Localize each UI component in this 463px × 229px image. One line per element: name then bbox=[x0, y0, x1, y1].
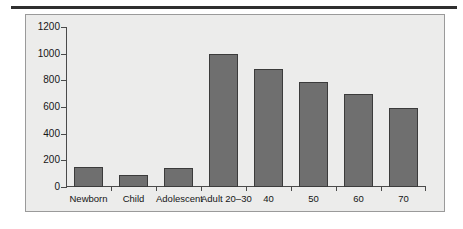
bar bbox=[209, 54, 238, 187]
y-axis-tick bbox=[61, 107, 67, 108]
y-axis-tick-label: 400 bbox=[43, 127, 60, 140]
y-axis-tick-label: 0 bbox=[54, 180, 60, 193]
top-divider-rule bbox=[11, 6, 457, 9]
y-axis-tick bbox=[61, 160, 67, 161]
y-axis-tick-label: 200 bbox=[43, 153, 60, 166]
plot-area: 020040060080010001200 NewbornChildAdoles… bbox=[66, 27, 426, 187]
y-axis-tick-label: 600 bbox=[43, 100, 60, 113]
bar bbox=[119, 175, 148, 187]
x-axis-tick-label: Adult 20–30 bbox=[201, 193, 246, 205]
bar bbox=[299, 82, 328, 187]
x-axis-tick-label: 50 bbox=[291, 193, 336, 205]
y-axis-tick-label: 1200 bbox=[38, 20, 60, 33]
x-axis-tick-label: Child bbox=[111, 193, 156, 205]
y-axis-tick bbox=[61, 54, 67, 55]
y-axis-tick bbox=[61, 80, 67, 81]
x-axis-tick-label: 40 bbox=[246, 193, 291, 205]
bar bbox=[164, 168, 193, 187]
x-axis-tick bbox=[381, 187, 382, 191]
x-axis-tick bbox=[291, 187, 292, 191]
y-axis-tick bbox=[61, 187, 67, 188]
x-axis-tick-label: 60 bbox=[336, 193, 381, 205]
bar bbox=[254, 69, 283, 187]
y-axis-tick-label: 800 bbox=[43, 73, 60, 86]
bar bbox=[389, 108, 418, 187]
y-axis-tick bbox=[61, 27, 67, 28]
x-axis-tick bbox=[246, 187, 247, 191]
x-axis-tick-label: Adolescent bbox=[156, 193, 201, 205]
x-axis-tick bbox=[201, 187, 202, 191]
x-axis-tick bbox=[336, 187, 337, 191]
x-axis-tick bbox=[156, 187, 157, 191]
figure-frame: 020040060080010001200 NewbornChildAdoles… bbox=[25, 14, 445, 212]
x-axis-tick bbox=[111, 187, 112, 191]
chart-page: 020040060080010001200 NewbornChildAdoles… bbox=[0, 0, 463, 229]
x-axis-tick bbox=[425, 187, 426, 191]
x-axis-tick-label: 70 bbox=[381, 193, 426, 205]
bar bbox=[74, 167, 103, 187]
x-axis-tick-label: Newborn bbox=[66, 193, 111, 205]
y-axis-tick-label: 1000 bbox=[38, 47, 60, 60]
bar bbox=[344, 94, 373, 187]
y-axis-tick bbox=[61, 134, 67, 135]
